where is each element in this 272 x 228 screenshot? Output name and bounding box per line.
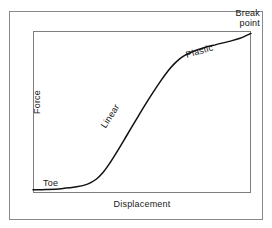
force-displacement-chart: Force Displacement Toe Linear Plastic Br… (0, 0, 272, 228)
annotation-break-point: Break point (208, 8, 260, 28)
y-axis-label: Force (32, 72, 42, 132)
plot-area-box (33, 31, 251, 193)
annotation-toe: Toe (43, 178, 58, 188)
annotation-break-point-line1: Break (208, 8, 260, 18)
x-axis-label: Displacement (33, 199, 251, 209)
annotation-break-point-line2: point (208, 18, 260, 28)
